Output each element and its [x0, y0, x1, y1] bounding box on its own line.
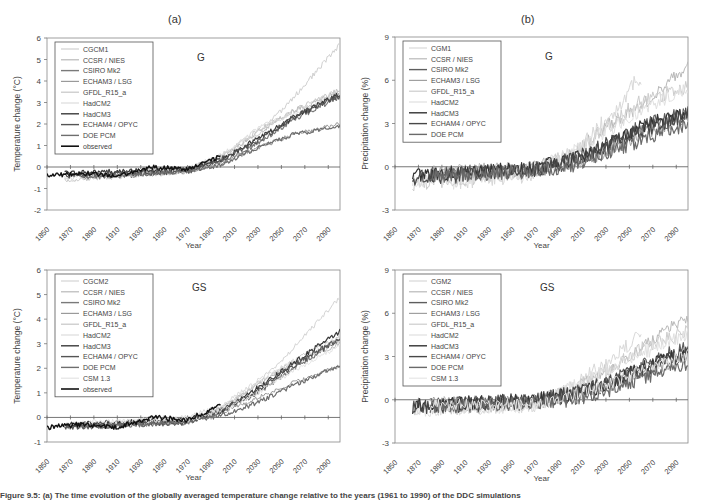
legend-label: CGM1	[431, 45, 451, 52]
x-tick-label: 1870	[405, 225, 423, 243]
y-tick-label: 1	[37, 389, 42, 398]
y-tick-label: -1	[34, 438, 42, 447]
x-tick-label: 1850	[33, 457, 51, 475]
x-tick-label: 1910	[452, 458, 470, 476]
x-tick-label: 1950	[150, 457, 168, 475]
figure-charts: -2-1012345618501870189019101930195019701…	[0, 0, 702, 500]
legend-label: DOE PCM	[83, 132, 116, 139]
legend-label: CSIRO Mk2	[83, 299, 120, 306]
x-axis-label: Year	[533, 241, 550, 250]
legend-label: GFDL_R15_a	[83, 89, 126, 97]
legend-label: CSIRO Mk2	[431, 66, 468, 73]
y-axis-label: Precipitation change (%)	[360, 310, 370, 403]
x-tick-label: 1950	[150, 225, 168, 243]
x-tick-label: 2090	[315, 225, 333, 243]
y-tick-label: 2	[37, 364, 42, 373]
legend-label: CCSR / NIES	[431, 56, 473, 63]
legend-label: HadCM3	[431, 343, 459, 350]
x-axis-label: Year	[533, 474, 550, 483]
y-tick-label: 4	[37, 315, 42, 324]
y-tick-label: -3	[382, 206, 390, 215]
legend-label: ECHAM4 / OPYC	[431, 120, 486, 127]
y-tick-label: -1	[34, 185, 42, 194]
legend-label: CCSR / NIES	[83, 57, 125, 64]
y-tick-label: 3	[385, 120, 390, 129]
legend-label: DOE PCM	[431, 364, 464, 371]
x-tick-label: 1910	[104, 457, 122, 475]
y-tick-label: 1	[37, 142, 42, 151]
legend-label: ECHAM4 / OPYC	[83, 353, 138, 360]
x-tick-label: 2070	[291, 457, 309, 475]
x-tick-label: 2090	[663, 225, 681, 243]
legend-label: ECHAM3 / LSG	[83, 78, 132, 85]
x-tick-label: 2010	[569, 458, 587, 476]
y-tick-label: 5	[37, 56, 42, 65]
x-tick-label: 2070	[291, 225, 309, 243]
x-tick-label: 1870	[405, 458, 423, 476]
legend-label: ECHAM3 / LSG	[431, 310, 480, 317]
x-tick-label: 2010	[569, 225, 587, 243]
x-tick-label: 1890	[428, 458, 446, 476]
x-tick-label: 1850	[381, 458, 399, 476]
legend-label: HadCM2	[83, 332, 111, 339]
x-tick-label: 1930	[475, 225, 493, 243]
x-tick-label: 2030	[244, 457, 262, 475]
x-tick-label: 2030	[244, 225, 262, 243]
legend-label: HadCM3	[83, 343, 111, 350]
legend-label: CCSR / NIES	[431, 289, 473, 296]
chart-b-top: -303691850187018901910193019501970199020…	[360, 33, 688, 250]
y-tick-label: -2	[34, 206, 42, 215]
legend-label: ECHAM4 / OPYC	[83, 121, 138, 128]
legend-label: GFDL_R15_a	[83, 321, 126, 329]
legend-label: CSIRO Mk2	[83, 67, 120, 74]
y-tick-label: 6	[385, 309, 390, 318]
figure-caption: Figure 9.5: (a) The time evolution of th…	[0, 491, 702, 500]
scenario-label: G	[545, 51, 553, 62]
legend-label: HadCM2	[431, 332, 459, 339]
legend-label: DOE PCM	[431, 131, 464, 138]
legend-label: DOE PCM	[83, 364, 116, 371]
legend-label: ECHAM3 / LSG	[431, 77, 480, 84]
legend-label: CGM2	[431, 278, 451, 285]
legend-label: GFDL_R15_a	[431, 88, 474, 96]
y-tick-label: 9	[385, 33, 390, 42]
legend-label: HadCM3	[431, 110, 459, 117]
legend-label: CGCM1	[83, 46, 108, 53]
x-tick-label: 1890	[428, 225, 446, 243]
y-axis-label: Precipitation change (%)	[360, 77, 370, 170]
x-tick-label: 1850	[381, 225, 399, 243]
x-tick-label: 2070	[639, 458, 657, 476]
legend-label: ECHAM3 / LSG	[83, 310, 132, 317]
legend-label: CSIRO Mk2	[431, 299, 468, 306]
x-tick-label: 2090	[663, 458, 681, 476]
legend-label: CSM 1.3	[431, 375, 458, 382]
legend-label: CGCM2	[83, 278, 108, 285]
legend-label: observed	[83, 143, 112, 150]
chart-b-bottom: -303691850187018901910193019501970199020…	[360, 266, 688, 483]
y-tick-label: 2	[37, 120, 42, 129]
x-tick-label: 2070	[639, 225, 657, 243]
y-tick-label: 4	[37, 77, 42, 86]
chart-a-top: -2-1012345618501870189019101930195019701…	[12, 34, 340, 250]
y-tick-label: 0	[385, 163, 390, 172]
y-tick-label: 6	[385, 76, 390, 85]
scenario-label: GS	[192, 282, 207, 293]
x-tick-label: 2050	[616, 458, 634, 476]
x-tick-label: 1910	[452, 225, 470, 243]
y-axis-label: Temperature change (°C)	[12, 76, 22, 172]
y-tick-label: 0	[37, 163, 42, 172]
x-tick-label: 2010	[221, 457, 239, 475]
y-tick-label: 9	[385, 266, 390, 275]
x-axis-label: Year	[185, 241, 202, 250]
legend-label: HadCM3	[83, 111, 111, 118]
x-tick-label: 1890	[80, 225, 98, 243]
y-tick-label: -3	[382, 439, 390, 448]
x-tick-label: 2090	[315, 457, 333, 475]
scenario-label: GS	[540, 282, 555, 293]
x-tick-label: 2010	[221, 225, 239, 243]
y-tick-label: 0	[37, 413, 42, 422]
x-tick-label: 1870	[57, 225, 75, 243]
x-tick-label: 1930	[475, 458, 493, 476]
scenario-label: G	[197, 52, 205, 63]
y-tick-label: 0	[385, 396, 390, 405]
